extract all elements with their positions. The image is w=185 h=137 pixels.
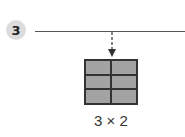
step-number: 3 [11,23,20,38]
grid-cell [111,89,137,104]
grid-cell [85,60,111,75]
grid-cell [111,60,137,75]
multiplication-label: 3 × 2 [84,112,138,129]
step-number-badge: 3 [6,20,26,40]
grid-cell [85,89,111,104]
grid-cell [111,75,137,90]
grid-cell [85,75,111,90]
dashed-arrow-down-icon [106,32,118,58]
array-grid [84,59,138,105]
